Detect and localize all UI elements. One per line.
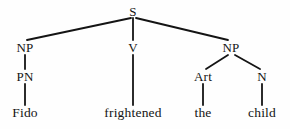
node-pn: PN xyxy=(16,70,33,83)
edge-s-to-np-subject xyxy=(27,18,131,40)
leaf-fido: Fido xyxy=(12,106,38,120)
leaf-child: child xyxy=(248,106,276,120)
leaf-the: the xyxy=(194,106,211,120)
node-art: Art xyxy=(194,70,212,83)
node-n: N xyxy=(257,70,267,83)
leaf-frightened: frightened xyxy=(104,106,161,120)
edge-np-object-to-n xyxy=(235,55,260,69)
node-v: V xyxy=(128,41,138,54)
node-np-object: NP xyxy=(222,41,239,54)
edge-s-to-np-object xyxy=(136,18,228,40)
syntax-tree-diagram: S NP V NP PN Art N Fido frightened the c… xyxy=(0,0,290,129)
edge-np-object-to-art xyxy=(206,55,228,69)
node-np-subject: NP xyxy=(16,41,33,54)
node-s: S xyxy=(129,5,136,18)
